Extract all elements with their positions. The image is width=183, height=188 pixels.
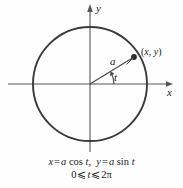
caption-block: x=a cos t, y=a sin t 0⩽t⩽2π <box>0 155 183 181</box>
radius-label: a <box>110 56 116 67</box>
y-axis-label: y <box>96 3 101 14</box>
parametric-circle-figure: y x a t (x, y) x=a cos t, y=a sin t 0⩽t⩽… <box>0 0 183 188</box>
point-close-paren: ) <box>158 46 161 57</box>
caption-comma: , <box>88 156 91 167</box>
caption-a-1: a <box>61 156 66 167</box>
caption-cos: cos <box>69 156 83 167</box>
caption-line-domain: 0⩽t⩽2π <box>0 168 183 181</box>
caption-le-2: ⩽ <box>90 169 101 180</box>
caption-sin: sin <box>117 156 129 167</box>
caption-t-2: t <box>132 156 135 167</box>
caption-eq-2: = <box>101 156 109 167</box>
y-axis-arrowhead <box>87 4 93 12</box>
x-axis-label: x <box>167 87 172 98</box>
point-coordinate-label: (x, y) <box>141 47 162 57</box>
angle-label: t <box>114 72 117 83</box>
caption-le-1: ⩽ <box>76 169 87 180</box>
caption-eq-1: = <box>53 156 61 167</box>
caption-a-2: a <box>109 156 114 167</box>
caption-line-equations: x=a cos t, y=a sin t <box>0 155 183 168</box>
caption-two-pi: 2π <box>101 169 112 180</box>
